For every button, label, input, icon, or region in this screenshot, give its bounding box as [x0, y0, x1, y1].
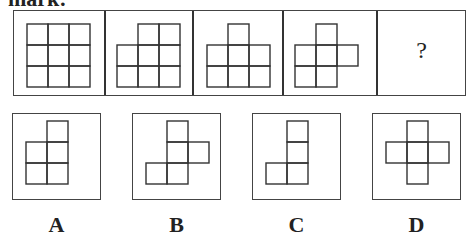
grid-cell: [266, 163, 287, 184]
grid-cell: [295, 45, 316, 66]
grid-cell: [26, 142, 47, 163]
grid-cell: [287, 163, 308, 184]
grid-cell: [159, 66, 180, 87]
grid-cell: [27, 66, 48, 87]
grid-cell: [337, 45, 358, 66]
grid-cell: [48, 24, 69, 45]
sequence-strip: ?: [13, 10, 466, 96]
grid-cell: [69, 45, 90, 66]
grid-cell: [407, 163, 428, 184]
option-c-grid: [253, 114, 342, 201]
option-a-figure[interactable]: [12, 113, 101, 200]
sequence-panel-3: [192, 11, 282, 95]
sequence-panel-4: [282, 11, 376, 95]
grid-cell: [386, 142, 407, 163]
grid-cell: [407, 121, 428, 142]
grid-figure-3: [194, 11, 284, 97]
grid-cell: [26, 163, 47, 184]
grid-cell: [316, 45, 337, 66]
option-b-figure[interactable]: [132, 113, 221, 200]
option-d-label[interactable]: D: [372, 212, 461, 238]
grid-cell: [138, 24, 159, 45]
grid-cell: [138, 66, 159, 87]
grid-cell: [27, 45, 48, 66]
grid-cell: [428, 142, 449, 163]
grid-figure-4: [284, 11, 378, 97]
grid-cell: [69, 66, 90, 87]
grid-cell: [138, 45, 159, 66]
grid-cell: [146, 163, 167, 184]
grid-cell: [316, 66, 337, 87]
grid-cell: [295, 66, 316, 87]
option-a-grid: [13, 114, 102, 201]
grid-cell: [167, 142, 188, 163]
option-c-label[interactable]: C: [252, 212, 341, 238]
grid-cell: [249, 66, 270, 87]
grid-cell: [167, 121, 188, 142]
grid-cell: [47, 121, 68, 142]
grid-cell: [287, 121, 308, 142]
grid-cell: [249, 45, 270, 66]
option-d-figure[interactable]: [372, 113, 461, 200]
sequence-panel-1: [14, 11, 104, 95]
option-b-label[interactable]: B: [132, 212, 221, 238]
option-b-grid: [133, 114, 222, 201]
grid-cell: [167, 163, 188, 184]
grid-cell: [47, 163, 68, 184]
grid-figure-1: [14, 11, 104, 97]
grid-cell: [27, 24, 48, 45]
grid-cell: [117, 45, 138, 66]
grid-cell: [287, 142, 308, 163]
option-c-figure[interactable]: [252, 113, 341, 200]
grid-figure-2: [106, 11, 194, 97]
grid-cell: [159, 45, 180, 66]
grid-cell: [48, 66, 69, 87]
grid-cell: [228, 66, 249, 87]
sequence-panel-answer: ?: [376, 11, 465, 95]
sequence-panel-2: [104, 11, 192, 95]
grid-cell: [47, 142, 68, 163]
option-a-label[interactable]: A: [12, 212, 101, 238]
option-d-grid: [373, 114, 462, 201]
grid-cell: [69, 24, 90, 45]
grid-cell: [207, 66, 228, 87]
grid-cell: [316, 24, 337, 45]
grid-cell: [407, 142, 428, 163]
grid-cell: [159, 24, 180, 45]
grid-cell: [188, 142, 209, 163]
grid-cell: [228, 45, 249, 66]
question-mark: ?: [378, 37, 465, 64]
grid-cell: [207, 45, 228, 66]
grid-cell: [48, 45, 69, 66]
grid-cell: [117, 66, 138, 87]
grid-cell: [228, 24, 249, 45]
